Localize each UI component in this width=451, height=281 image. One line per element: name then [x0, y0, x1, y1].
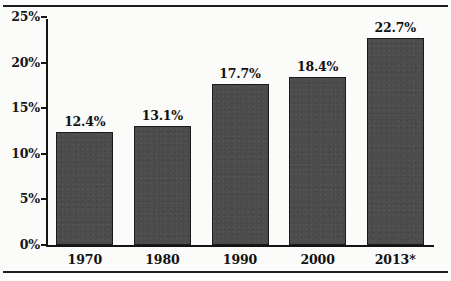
bar-value-label: 12.4% — [44, 116, 125, 129]
y-axis-tick — [41, 198, 47, 200]
bar[interactable] — [289, 77, 346, 245]
x-axis-line — [46, 245, 434, 247]
bar[interactable] — [56, 132, 113, 245]
y-axis-tick-label: 10% — [2, 148, 40, 161]
y-axis-tick — [41, 107, 47, 109]
x-axis-category-label: 2000 — [277, 254, 358, 267]
bar[interactable] — [134, 126, 191, 245]
x-axis-category-label: 1970 — [44, 254, 125, 267]
x-axis-category-label: 1980 — [122, 254, 203, 267]
y-axis-tick-label: 20% — [2, 57, 40, 70]
bar-value-label: 17.7% — [200, 68, 281, 81]
y-axis-line — [46, 19, 48, 247]
x-axis-category-label: 2013* — [355, 254, 436, 267]
bar[interactable] — [367, 38, 424, 245]
bar-value-label: 22.7% — [355, 22, 436, 35]
y-axis-tick — [41, 153, 47, 155]
y-axis-tick-label: 0% — [2, 239, 40, 252]
bar-value-label: 13.1% — [122, 110, 203, 123]
bar-chart-plot-area: 0%5%10%15%20%25% 12.4%13.1%17.7%18.4%22.… — [0, 0, 451, 281]
chart-figure: 0%5%10%15%20%25% 12.4%13.1%17.7%18.4%22.… — [0, 0, 451, 281]
y-axis-tick-label: 25% — [2, 11, 40, 24]
bar-value-label: 18.4% — [277, 61, 358, 74]
y-axis-tick — [41, 16, 47, 18]
bar[interactable] — [212, 84, 269, 245]
y-axis-tick — [41, 244, 47, 246]
y-axis-tick-label: 15% — [2, 102, 40, 115]
y-axis-tick — [41, 62, 47, 64]
y-axis-tick-label: 5% — [2, 193, 40, 206]
x-axis-category-label: 1990 — [200, 254, 281, 267]
